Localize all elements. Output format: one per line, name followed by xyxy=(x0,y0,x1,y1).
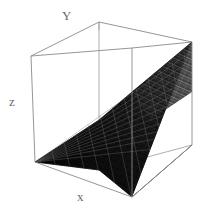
surface-mesh xyxy=(35,42,192,197)
surface-shading-overlay xyxy=(35,42,192,197)
bounding-box-top-face xyxy=(31,22,192,56)
axis-label-z: z xyxy=(9,95,15,108)
axis-label-y: Y xyxy=(62,9,72,22)
plot-canvas xyxy=(0,0,203,216)
surface-plot-figure: Y z x xyxy=(0,0,203,216)
axis-label-x: x xyxy=(77,190,84,203)
